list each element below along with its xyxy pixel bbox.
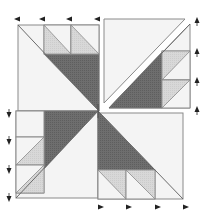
- arrow-right-icon: [98, 205, 104, 210]
- arrow-left-icon: [66, 17, 72, 22]
- arrows-left: [7, 109, 12, 202]
- arrow-right-icon: [155, 205, 161, 210]
- arrow-left-icon: [39, 17, 45, 22]
- quadrant-bottom-left: [16, 111, 98, 198]
- quilt-block-diagram: [0, 0, 209, 213]
- arrow-left-icon: [94, 17, 100, 22]
- arrow-right-icon: [126, 205, 132, 210]
- arrows-top: [14, 17, 100, 22]
- quadrant-bottom-right: [98, 111, 183, 199]
- arrow-left-icon: [14, 17, 20, 22]
- arrow-down-icon: [7, 139, 12, 145]
- quadrant-top-right: [104, 19, 190, 108]
- arrow-right-icon: [183, 205, 189, 210]
- arrow-down-icon: [7, 168, 12, 174]
- arrow-down-icon: [7, 196, 12, 202]
- arrows-right: [195, 17, 200, 115]
- arrows-bottom: [98, 205, 189, 210]
- arrow-down-icon: [7, 112, 12, 118]
- quadrant-top-left: [18, 25, 99, 111]
